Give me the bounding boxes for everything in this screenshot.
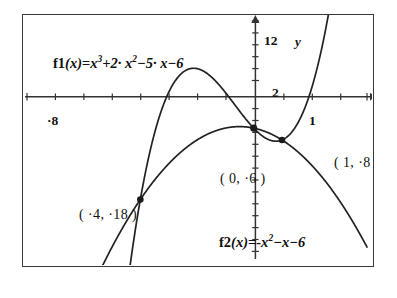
equation-f1: f1(x)=x3+2· x2−5· x−6: [53, 55, 184, 70]
y-axis-arrow: [251, 15, 259, 23]
curve-f1: [125, 15, 335, 265]
equation-f2-term2: −x−6: [273, 234, 305, 250]
marker-point-a: [137, 196, 144, 203]
plot-frame: f1(x)=x3+2· x2−5· x−6 f2(x)=-x2−x−6 ( ·4…: [22, 14, 374, 267]
equation-f2-name: f2: [219, 234, 231, 250]
plot-canvas: [23, 15, 372, 265]
marker-point-c: [279, 137, 286, 144]
equation-f1-term2: +2· x: [102, 55, 132, 71]
point-label-b: ( 0, ·6 ): [220, 172, 266, 186]
equation-f2: f2(x)=-x2−x−6: [219, 234, 305, 249]
graph-screenshot: f1(x)=x3+2· x2−5· x−6 f2(x)=-x2−x−6 ( ·4…: [0, 0, 397, 298]
equation-f2-arg: (x): [231, 234, 248, 250]
y-axis-max-tick-label: 12: [264, 34, 278, 48]
equation-f1-term3: −5· x−6: [137, 55, 184, 71]
equation-f1-arg: (x): [65, 55, 82, 71]
equation-f1-term1: x: [90, 55, 97, 71]
equation-f1-name: f1: [53, 55, 65, 71]
x-axis-arrow: [370, 93, 372, 101]
x-axis-one-tick-label: 1: [309, 114, 316, 128]
y-axis-name-label: y: [295, 35, 301, 48]
point-label-c: ( 1, ·8 ): [334, 156, 374, 170]
equation-f2-term1: -x: [256, 234, 268, 250]
axis-group: [25, 15, 372, 259]
y-axis-two-tick-label: 2: [272, 86, 279, 100]
x-axis-min-tick-label: ·8: [47, 114, 58, 128]
point-label-a: ( ·4, ·18 ): [79, 208, 137, 222]
marker-point-b: [250, 125, 257, 132]
